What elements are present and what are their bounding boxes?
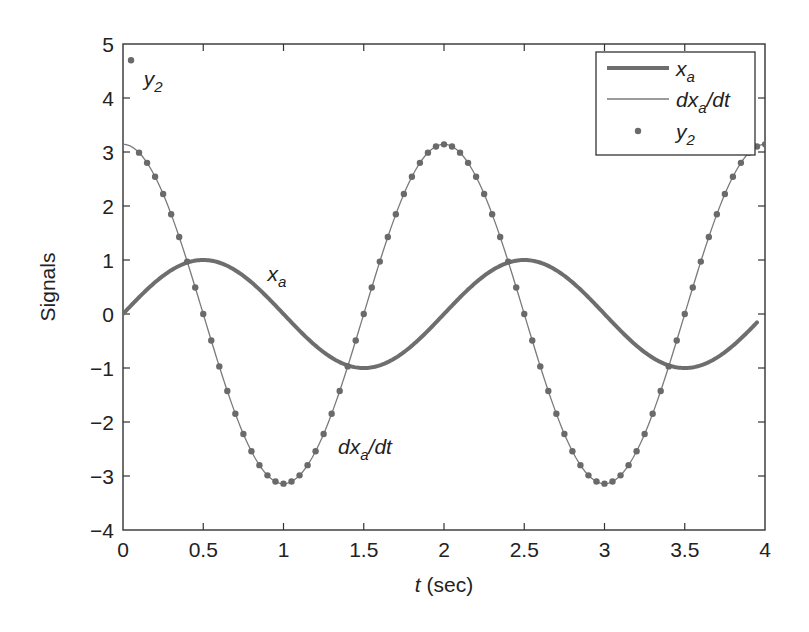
data-point — [393, 211, 399, 217]
series-xa-line — [123, 260, 757, 368]
data-point — [465, 160, 471, 166]
data-point — [497, 234, 503, 240]
data-point — [200, 311, 206, 317]
y-tick-label: −4 — [90, 519, 114, 542]
data-point — [762, 141, 768, 147]
legend: xadxa/dty2 — [596, 52, 755, 155]
x-tick-label: 0.5 — [189, 538, 218, 561]
x-tick-label: 3.5 — [670, 538, 699, 561]
data-point — [714, 211, 720, 217]
data-point — [248, 448, 254, 454]
data-point — [529, 337, 535, 343]
data-point — [409, 174, 415, 180]
data-point — [690, 284, 696, 290]
data-point — [417, 160, 423, 166]
data-point — [698, 258, 704, 264]
y-tick-label: 3 — [102, 141, 114, 164]
data-point — [433, 143, 439, 149]
data-point — [345, 363, 351, 369]
data-point — [738, 160, 744, 166]
data-point — [457, 149, 463, 155]
data-point — [296, 472, 302, 478]
data-point — [184, 258, 190, 264]
data-point — [449, 143, 455, 149]
data-point — [336, 388, 342, 394]
data-point — [601, 480, 607, 486]
data-point — [569, 448, 575, 454]
y-tick-label: −1 — [90, 357, 114, 380]
data-point — [625, 462, 631, 468]
x-tick-label: 1 — [278, 538, 290, 561]
data-point — [128, 57, 134, 63]
y-axis-label: Signals — [36, 253, 59, 322]
x-tick-label: 3 — [599, 538, 611, 561]
data-point — [537, 363, 543, 369]
data-point — [304, 462, 310, 468]
x-axis-label: t (sec) — [415, 573, 473, 596]
y-tick-label: 4 — [102, 87, 114, 110]
data-point — [521, 311, 527, 317]
data-point — [232, 411, 238, 417]
data-point — [577, 462, 583, 468]
data-point — [280, 480, 286, 486]
data-point — [361, 311, 367, 317]
x-tick-label: 1.5 — [349, 538, 378, 561]
y-tick-label: 5 — [102, 33, 114, 56]
data-point — [176, 234, 182, 240]
data-point — [256, 462, 262, 468]
data-point — [641, 431, 647, 437]
y-tick-label: −2 — [90, 411, 114, 434]
data-point — [288, 478, 294, 484]
data-point — [649, 411, 655, 417]
data-point — [160, 191, 166, 197]
data-point — [320, 431, 326, 437]
data-point — [657, 388, 663, 394]
data-point — [553, 411, 559, 417]
data-point — [144, 160, 150, 166]
data-point — [224, 388, 230, 394]
data-point — [353, 337, 359, 343]
data-point — [152, 174, 158, 180]
data-point — [369, 284, 375, 290]
data-point — [674, 337, 680, 343]
data-point — [513, 284, 519, 290]
y-tick-label: −3 — [90, 465, 114, 488]
data-point — [216, 363, 222, 369]
x-tick-label: 2 — [438, 538, 450, 561]
data-point — [192, 284, 198, 290]
data-point — [136, 149, 142, 155]
data-point — [240, 431, 246, 437]
y-tick-label: 0 — [102, 303, 114, 326]
data-point — [593, 478, 599, 484]
data-point — [730, 174, 736, 180]
data-point — [545, 388, 551, 394]
data-point — [441, 141, 447, 147]
data-point — [425, 149, 431, 155]
data-point — [272, 478, 278, 484]
curve-annotation: dxa/dt — [338, 435, 393, 463]
data-point — [328, 411, 334, 417]
data-point — [633, 448, 639, 454]
data-point — [489, 211, 495, 217]
data-point — [385, 234, 391, 240]
data-point — [561, 431, 567, 437]
data-point — [505, 258, 511, 264]
y-tick-label: 1 — [102, 249, 114, 272]
legend-dot-marker — [635, 128, 641, 134]
data-point — [666, 363, 672, 369]
x-tick-label: 2.5 — [510, 538, 539, 561]
data-point — [609, 478, 615, 484]
x-tick-label: 4 — [759, 538, 771, 561]
curve-annotation: y2 — [142, 67, 164, 95]
data-point — [706, 234, 712, 240]
data-point — [377, 258, 383, 264]
data-point — [617, 472, 623, 478]
y-tick-label: 2 — [102, 195, 114, 218]
x-tick-label: 0 — [117, 538, 129, 561]
data-point — [585, 472, 591, 478]
data-point — [168, 211, 174, 217]
data-point — [682, 311, 688, 317]
data-point — [208, 337, 214, 343]
data-point — [473, 174, 479, 180]
data-point — [264, 472, 270, 478]
